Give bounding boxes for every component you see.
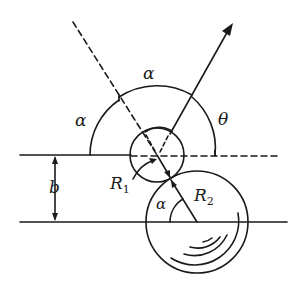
shade-arc-2 bbox=[184, 235, 227, 256]
label-r2: R2 bbox=[194, 187, 214, 207]
label-alpha-bottom: α bbox=[156, 197, 166, 212]
alpha-bottom-arc bbox=[170, 199, 183, 222]
shade-arc-1 bbox=[171, 213, 239, 265]
arrowhead-icon bbox=[222, 23, 233, 36]
inner-dash-right bbox=[160, 136, 168, 152]
b-arrow-up-icon bbox=[52, 156, 58, 164]
outer-angle-arc bbox=[90, 100, 119, 155]
r1-tip-arrow-icon bbox=[164, 170, 170, 178]
alpha-top-arc bbox=[119, 86, 192, 97]
b-arrow-down-icon bbox=[52, 213, 58, 221]
label-theta: θ bbox=[218, 111, 228, 128]
label-r2-main: R bbox=[194, 185, 207, 205]
shade-arc-4 bbox=[203, 238, 212, 242]
scattering-diagram bbox=[0, 0, 307, 281]
shade-arc-3 bbox=[190, 237, 220, 248]
label-r1-sub: 1 bbox=[123, 183, 130, 196]
theta-arc bbox=[192, 97, 215, 155]
label-r1-main: R bbox=[110, 173, 123, 193]
label-alpha-left: α bbox=[75, 112, 86, 129]
inner-dash-left bbox=[146, 135, 156, 153]
r1-leader bbox=[133, 161, 152, 179]
label-r2-sub: 2 bbox=[207, 195, 214, 208]
incident-ray-dashed bbox=[73, 22, 157, 155]
label-b: b bbox=[49, 179, 60, 196]
label-alpha-top: α bbox=[143, 65, 154, 82]
label-r1: R1 bbox=[110, 175, 130, 195]
